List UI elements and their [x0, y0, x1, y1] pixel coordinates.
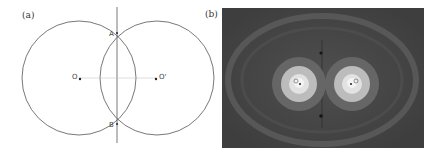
- dot-lower: [319, 114, 323, 118]
- point-b: [116, 123, 118, 125]
- label-a: A: [109, 30, 114, 38]
- point-a: [116, 32, 118, 34]
- label-b: B: [109, 121, 114, 129]
- point-o-prime: [155, 78, 157, 80]
- label-o: O: [72, 73, 78, 81]
- figure-canvas: A B O O': [0, 0, 442, 155]
- label-o-prime: O': [159, 73, 167, 81]
- panel-b-image: [222, 8, 424, 148]
- source-right: [325, 57, 379, 111]
- panel-a-diagram: A B O O': [22, 7, 214, 143]
- point-o: [79, 78, 81, 80]
- dot-upper: [319, 51, 322, 54]
- source-left: [272, 57, 326, 111]
